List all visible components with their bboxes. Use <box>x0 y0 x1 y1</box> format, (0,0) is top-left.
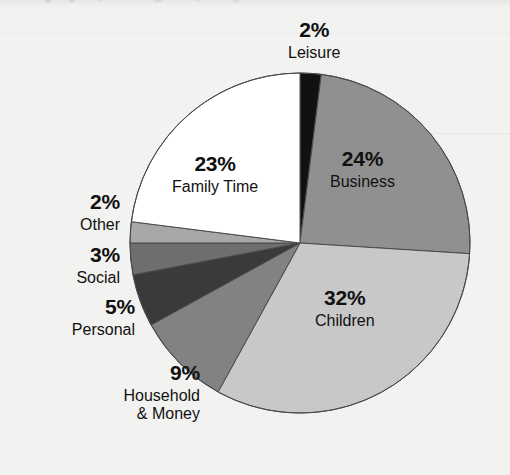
slice-percent-business: 24% <box>330 147 395 171</box>
slice-percent-personal: 5% <box>10 295 135 319</box>
slice-name-children: Children <box>315 312 375 330</box>
slice-label-other: 2% Other <box>10 190 120 233</box>
slice-label-family-time: 23% Family Time <box>172 152 258 195</box>
slice-name-social: Social <box>10 269 120 287</box>
slice-name-household-money: Household& Money <box>60 387 200 425</box>
slice-label-social: 3% Social <box>10 243 120 286</box>
slice-label-children: 32% Children <box>315 286 375 329</box>
slice-label-business: 24% Business <box>330 147 395 190</box>
slice-label-household-money: 9% Household& Money <box>60 361 200 424</box>
slice-percent-leisure: 2% <box>288 18 340 42</box>
slice-name-other: Other <box>10 216 120 234</box>
slice-percent-household-money: 9% <box>60 361 200 385</box>
slice-percent-social: 3% <box>10 243 120 267</box>
slice-label-leisure: 2% Leisure <box>288 18 340 61</box>
slice-percent-family-time: 23% <box>172 152 258 176</box>
slice-percent-other: 2% <box>10 190 120 214</box>
slice-name-family-time: Family Time <box>172 178 258 196</box>
slice-name-leisure: Leisure <box>288 44 340 62</box>
slice-label-personal: 5% Personal <box>10 295 135 338</box>
slice-percent-children: 32% <box>315 286 375 310</box>
pie-chart-figure: 2% Leisure 24% Business 32% Children 23%… <box>0 0 510 475</box>
slice-name-household-line2: & Money <box>137 405 200 422</box>
slice-name-household-line1: Household <box>124 387 201 404</box>
slice-name-business: Business <box>330 173 395 191</box>
slice-name-personal: Personal <box>10 321 135 339</box>
